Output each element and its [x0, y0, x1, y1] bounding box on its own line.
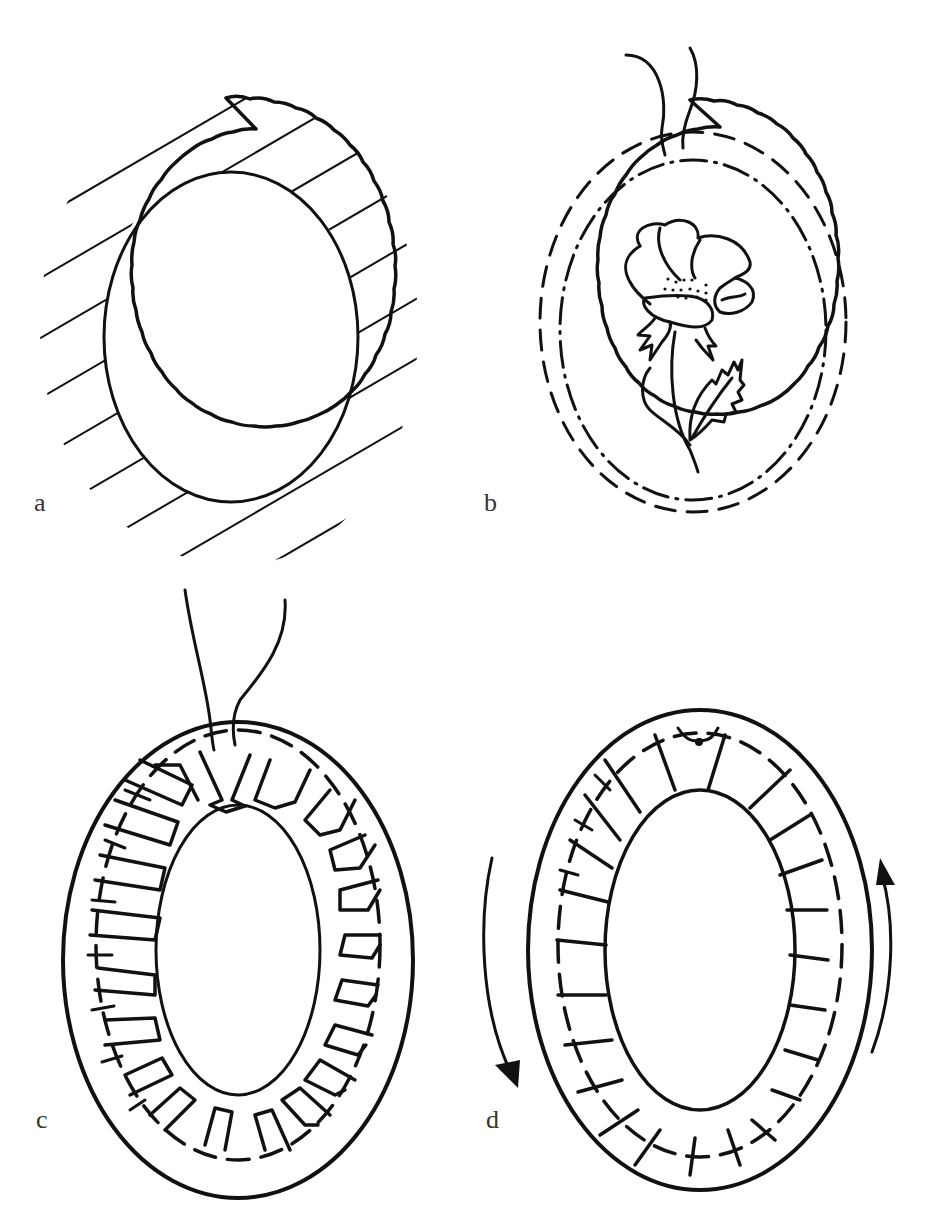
panel-a	[0, 0, 500, 960]
panel-label-c: c	[36, 1105, 48, 1135]
arrow-head-down	[495, 1060, 520, 1088]
hatch-pattern	[0, 0, 500, 960]
outer-edge	[528, 710, 872, 1190]
thread-end-left	[626, 55, 665, 155]
outer-edge	[63, 722, 413, 1198]
panel-b	[540, 48, 846, 512]
scalloped-outer-edge	[131, 96, 396, 427]
rotation-arrow-up	[872, 875, 891, 1052]
thread-knot-dot	[695, 738, 703, 746]
inner-opening	[156, 805, 320, 1095]
diagram-canvas	[0, 0, 943, 1218]
panel-label-a: a	[34, 488, 46, 518]
panel-c	[63, 590, 413, 1198]
inner-opening	[605, 790, 795, 1110]
rotation-arrow-down	[484, 858, 512, 1075]
panel-label-b: b	[484, 488, 497, 518]
poppy-flower	[626, 220, 754, 472]
panel-d	[484, 710, 895, 1190]
arrow-head-up	[876, 858, 895, 885]
outline-dash-dot-line	[560, 160, 826, 500]
panel-label-d: d	[486, 1105, 499, 1135]
